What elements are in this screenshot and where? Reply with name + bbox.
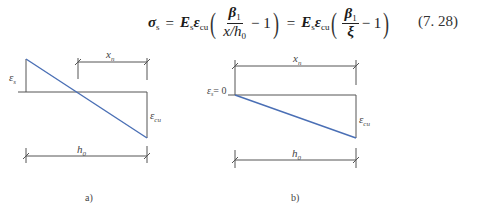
caption-a: a)	[85, 192, 93, 204]
strain-line	[235, 95, 356, 138]
eps-s-zero-label: εs= 0	[207, 85, 226, 97]
xn-label: xn	[105, 48, 115, 63]
caption-b: b)	[291, 192, 299, 204]
strain-diagrams: εs εcu xn h0 a) εs= 0 εcu xn h0 b)	[0, 0, 478, 216]
xn-label: xn	[292, 52, 302, 67]
eps-cu-label: εcu	[359, 113, 370, 128]
eps-cu-label: εcu	[150, 109, 161, 124]
strain-line	[26, 59, 147, 138]
eps-s-label: εs	[9, 71, 16, 86]
diagram-a	[18, 58, 147, 163]
